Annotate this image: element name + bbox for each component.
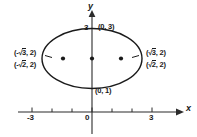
point-label-left-outer: (-√3, 2) bbox=[14, 48, 36, 57]
radical-icon: √3 bbox=[19, 48, 26, 57]
ellipse-diagram-figure: y x (0, 3) (0, 1) (-√3, 2) (-√2, 2) (√3,… bbox=[0, 0, 197, 137]
radical-icon: √3 bbox=[148, 48, 155, 57]
x-tick-label-pos3: 3 bbox=[149, 114, 153, 122]
point-label-left-inner: (-√2, 2) bbox=[14, 60, 36, 69]
point-label-bottom: (0, 1) bbox=[95, 87, 111, 95]
left-outer-prefix: (- bbox=[14, 48, 19, 57]
x-tick-label-zero: 0 bbox=[85, 114, 89, 122]
x-tick-label-neg3: -3 bbox=[27, 114, 34, 122]
x-axis-label: x bbox=[186, 104, 191, 113]
x-axis-arrowhead bbox=[176, 109, 184, 116]
radical-icon: √2 bbox=[148, 60, 155, 69]
y-axis-arrowhead bbox=[89, 10, 96, 17]
leader-line-right bbox=[132, 56, 139, 58]
point-label-right-outer: (√3, 2) bbox=[146, 48, 166, 57]
x-axis-ticks bbox=[32, 108, 152, 113]
left-inner-suffix: , 2) bbox=[26, 60, 36, 69]
right-inner-suffix: , 2) bbox=[156, 60, 166, 69]
y-axis-label: y bbox=[88, 2, 93, 11]
point-marker-left bbox=[61, 56, 65, 60]
right-outer-suffix: , 2) bbox=[156, 48, 166, 57]
point-label-top: (0, 3) bbox=[98, 23, 114, 31]
point-marker-center bbox=[90, 56, 94, 60]
leader-line-left bbox=[45, 56, 52, 58]
left-outer-suffix: , 2) bbox=[26, 48, 36, 57]
point-label-right-inner: (√2, 2) bbox=[146, 60, 166, 69]
point-marker-right bbox=[119, 56, 123, 60]
y-tick-label-3: 3 bbox=[84, 24, 88, 32]
radical-icon: √2 bbox=[19, 60, 26, 69]
left-inner-prefix: (- bbox=[14, 60, 19, 69]
